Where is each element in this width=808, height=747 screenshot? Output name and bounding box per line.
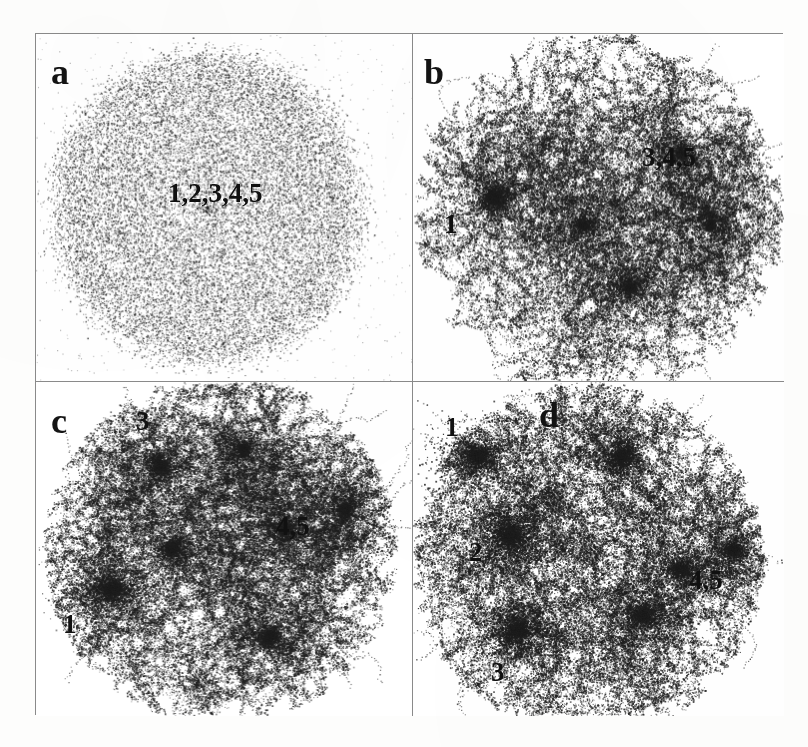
cluster-label-c-1: 4,5 xyxy=(276,513,310,540)
cluster-label-d-2: 3 xyxy=(491,659,505,686)
figure-root: a 1,2,3,4,5 b 3,4,5 1 c 3 4,5 1 d 1 2 3 … xyxy=(0,0,808,747)
cluster-label-b-0: 3,4,5 xyxy=(642,144,696,171)
panel-letter-b: b xyxy=(424,54,444,90)
cluster-label-c-2: 1 xyxy=(63,611,77,638)
panel-a: a 1,2,3,4,5 xyxy=(36,34,413,382)
cluster-label-c-0: 3 xyxy=(136,408,150,435)
panel-letter-a: a xyxy=(51,54,69,90)
scatter-plot-c xyxy=(36,382,412,716)
panel-letter-c: c xyxy=(51,403,67,439)
panel-d: d 1 2 3 4,5 xyxy=(413,382,784,716)
cluster-label-d-3: 4,5 xyxy=(689,567,723,594)
scatter-plot-b xyxy=(413,34,784,381)
cluster-label-d-0: 1 xyxy=(445,414,459,441)
panel-b: b 3,4,5 1 xyxy=(413,34,784,382)
panel-grid: a 1,2,3,4,5 b 3,4,5 1 c 3 4,5 1 d 1 2 3 … xyxy=(35,33,783,715)
panel-c: c 3 4,5 1 xyxy=(36,382,413,716)
panel-letter-d: d xyxy=(539,397,559,433)
cluster-label-d-1: 2 xyxy=(469,539,483,566)
cluster-label-a-0: 1,2,3,4,5 xyxy=(168,180,263,207)
cluster-label-b-1: 1 xyxy=(444,211,458,238)
